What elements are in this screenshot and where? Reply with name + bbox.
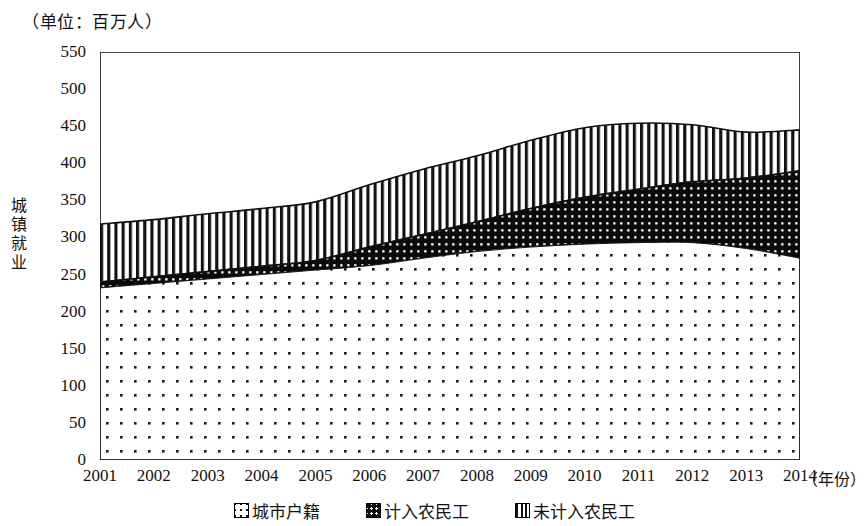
y-axis-title-char-0: 城	[8, 196, 30, 215]
y-axis-title: 城 镇 就 业	[8, 196, 30, 272]
x-axis-tick-2008: 2008	[460, 466, 494, 486]
x-axis-tick-2011: 2011	[622, 466, 655, 486]
chart-legend: 城市户籍 计入农民工 未计入农民工	[0, 498, 868, 523]
x-axis-tick-2002: 2002	[137, 466, 171, 486]
stacked-area-svg	[100, 52, 800, 460]
x-axis-tick-2006: 2006	[352, 466, 386, 486]
x-axis-tick-2003: 2003	[191, 466, 225, 486]
y-axis-tick-150: 150	[32, 339, 86, 359]
plot-area	[100, 52, 800, 460]
y-axis-tick-50: 50	[32, 413, 86, 433]
y-axis-tick-200: 200	[32, 302, 86, 322]
legend-swatch-dark-dots	[366, 503, 381, 518]
x-axis-tick-2010: 2010	[568, 466, 602, 486]
legend-item-urban-hukou[interactable]: 城市户籍	[234, 498, 320, 523]
y-axis-tick-100: 100	[32, 376, 86, 396]
y-axis-tick-350: 350	[32, 190, 86, 210]
legend-swatch-vertical-stripes	[515, 503, 530, 518]
y-axis-tick-0: 0	[32, 450, 86, 470]
y-axis-tick-400: 400	[32, 153, 86, 173]
y-axis-tick-550: 550	[32, 42, 86, 62]
y-axis-tick-labels: 550500450400350300250200150100500	[30, 0, 86, 526]
legend-item-counted-migrant[interactable]: 计入农民工	[366, 498, 469, 523]
x-axis-tick-2013: 2013	[729, 466, 763, 486]
x-axis-tick-2009: 2009	[514, 466, 548, 486]
x-axis-tick-2001: 2001	[83, 466, 117, 486]
x-axis-title: （年份）	[802, 466, 866, 490]
y-axis-title-char-2: 就	[8, 234, 30, 253]
x-axis-tick-2007: 2007	[406, 466, 440, 486]
x-axis-tick-2012: 2012	[675, 466, 709, 486]
y-axis-tick-500: 500	[32, 79, 86, 99]
y-axis-tick-300: 300	[32, 227, 86, 247]
y-axis-tick-450: 450	[32, 116, 86, 136]
legend-label-2: 未计入农民工	[533, 498, 635, 523]
legend-label-0: 城市户籍	[252, 498, 320, 523]
y-axis-title-char-3: 业	[8, 253, 30, 272]
chart-container: （单位：百万人） 城 镇 就 业 55050045040035030025020…	[0, 0, 868, 526]
legend-item-uncounted-migrant[interactable]: 未计入农民工	[515, 498, 635, 523]
legend-label-1: 计入农民工	[384, 498, 469, 523]
legend-swatch-light-dots	[234, 503, 249, 518]
x-axis-tick-2004: 2004	[245, 466, 279, 486]
y-axis-tick-250: 250	[32, 265, 86, 285]
x-axis-tick-2005: 2005	[298, 466, 332, 486]
y-axis-title-char-1: 镇	[8, 215, 30, 234]
